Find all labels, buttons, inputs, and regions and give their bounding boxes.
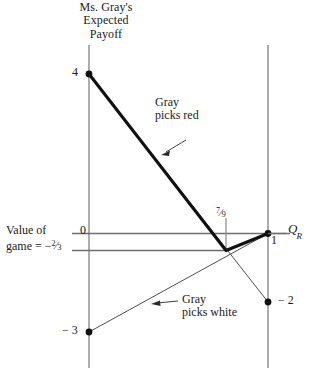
value-of-game-label-line-2: game = −2⁄3: [6, 240, 61, 254]
gray-picks-red-leader: [166, 140, 186, 152]
chart-title: Ms. Gray's Expected Payoff: [46, 1, 166, 41]
expected-payoff-chart: [0, 0, 316, 388]
chart-title-line-3: Payoff: [46, 28, 166, 41]
annotation-gray-picks-white-line-2: picks white: [182, 306, 260, 319]
x-tick-label-one: 1: [271, 234, 277, 247]
annotation-gray-picks-white-line-1: Gray: [182, 293, 260, 306]
x-axis-label: QR: [288, 222, 303, 239]
value-of-game-label-line-1: Value of: [6, 224, 46, 237]
annotation-gray-picks-red: Gray picks red: [155, 96, 225, 123]
y-tick-label-0: 0: [80, 224, 86, 237]
y-tick-label-4: 4: [72, 66, 78, 79]
chart-title-line-2: Expected: [46, 14, 166, 27]
seven-ninths-denominator: 9: [222, 210, 226, 219]
y-tick-label-minus-3: − 3: [62, 324, 78, 337]
gray-picks-red-arrowhead: [161, 151, 170, 157]
point-payoff-4: [86, 71, 93, 78]
annotation-gray-picks-red-line-2: picks red: [155, 109, 225, 122]
annotation-gray-picks-red-line-1: Gray: [155, 96, 225, 109]
value-of-game-numerator: 2: [52, 239, 56, 248]
gray-picks-white-arrowhead: [151, 301, 161, 307]
seven-ninths-fraction: 7⁄9: [216, 206, 226, 220]
chart-title-line-1: Ms. Gray's: [46, 1, 166, 14]
point-payoff-minus-3: [86, 329, 93, 336]
x-axis-label-subscript: R: [296, 231, 302, 241]
seven-ninths-numerator: 7: [216, 206, 220, 215]
value-of-game-denominator: 3: [57, 243, 61, 252]
annotation-gray-picks-white: Gray picks white: [182, 293, 260, 320]
y-tick-label-minus-2: − 2: [278, 294, 294, 307]
value-of-game-fraction: 2⁄3: [52, 239, 62, 253]
point-payoff-minus-2: [265, 299, 272, 306]
value-of-game-equals-text: game = −: [6, 239, 52, 253]
x-tick-label-seven-ninths: 7⁄9: [216, 207, 226, 221]
